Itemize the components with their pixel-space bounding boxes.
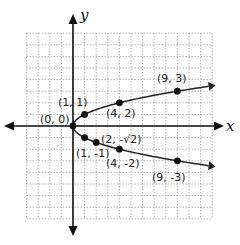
y-axis-down-arrow-icon xyxy=(69,226,78,236)
data-point xyxy=(116,146,123,153)
x-axis-right-arrow-icon xyxy=(214,122,224,131)
data-point xyxy=(93,139,100,146)
data-point xyxy=(81,111,88,118)
label-point-9-neg3: (9, -3) xyxy=(152,171,186,184)
label-point-0-0: (0, 0) xyxy=(40,113,70,126)
label-point-9-3: (9, 3) xyxy=(157,72,187,85)
x-axis-label: x xyxy=(226,117,235,135)
data-point xyxy=(174,157,181,164)
label-point-4-neg2: (4, -2) xyxy=(106,157,140,170)
data-point xyxy=(174,88,181,95)
data-point xyxy=(116,99,123,106)
graph: x y (0, 0) (1, 1) (4, 2) (9, 3) (1, -1) … xyxy=(0,0,240,245)
label-point-2-negsqrt2: (2, -√2) xyxy=(101,133,142,146)
y-axis-up-arrow-icon xyxy=(69,14,78,24)
upper-branch-arrow-icon xyxy=(208,82,216,91)
label-point-1-neg1: (1, -1) xyxy=(76,147,110,160)
x-axis xyxy=(4,122,224,131)
y-axis-label: y xyxy=(79,6,89,24)
x-axis-left-arrow-icon xyxy=(4,122,14,131)
label-point-1-1: (1, 1) xyxy=(58,96,88,109)
label-point-4-2: (4, 2) xyxy=(106,107,136,120)
data-point xyxy=(81,134,88,141)
data-point xyxy=(70,123,77,130)
